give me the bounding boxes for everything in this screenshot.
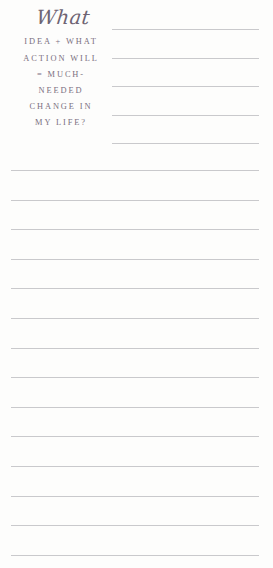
writing-rule-full-6 xyxy=(11,318,259,319)
writing-rule-full-4 xyxy=(11,259,259,260)
writing-rule-full-8 xyxy=(11,377,259,378)
writing-rule-full-2 xyxy=(11,200,259,201)
writing-rule-short-2 xyxy=(112,58,259,59)
prompt-caps-block: IDEA + WHAT ACTION WILL = MUCH- NEEDED C… xyxy=(8,34,112,131)
journal-page: What IDEA + WHAT ACTION WILL = MUCH- NEE… xyxy=(0,0,273,568)
prompt-caps-line: CHANGE IN xyxy=(10,99,112,115)
prompt-caps-line: MY LIFE? xyxy=(10,115,112,131)
writing-rule-full-14 xyxy=(11,555,259,556)
prompt-caps-line: NEEDED xyxy=(10,83,112,99)
prompt-block: What IDEA + WHAT ACTION WILL = MUCH- NEE… xyxy=(8,8,112,131)
writing-rule-short-5 xyxy=(112,143,259,144)
writing-rule-short-3 xyxy=(112,86,259,87)
writing-rule-full-3 xyxy=(11,229,259,230)
writing-rule-full-5 xyxy=(11,288,259,289)
writing-rule-full-10 xyxy=(11,436,259,437)
writing-rule-short-1 xyxy=(112,29,259,30)
writing-rule-short-4 xyxy=(112,115,259,116)
prompt-caps-line: ACTION WILL xyxy=(10,51,112,67)
prompt-caps-line: IDEA + WHAT xyxy=(10,34,112,50)
writing-rule-full-1 xyxy=(11,170,259,171)
writing-rule-full-12 xyxy=(11,496,259,497)
writing-rule-full-7 xyxy=(11,348,259,349)
writing-rule-full-13 xyxy=(11,525,259,526)
prompt-script-word: What xyxy=(7,8,113,28)
prompt-caps-line: = MUCH- xyxy=(10,67,112,83)
writing-rule-full-11 xyxy=(11,466,259,467)
writing-rule-full-9 xyxy=(11,407,259,408)
